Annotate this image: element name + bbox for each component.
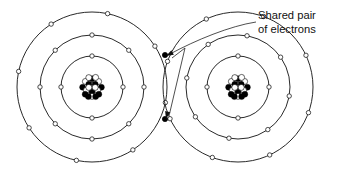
diagram-canvas: Shared pair of electrons — [0, 0, 347, 169]
callout-label-line-1: Shared pair — [258, 9, 316, 21]
right-atom-middle-shell-electron — [185, 76, 189, 80]
nucleon-neutron — [232, 75, 238, 81]
right-atom-outer-shell-electron — [168, 117, 172, 121]
left-atom-outer-shell-electron — [131, 148, 135, 152]
left-atom-middle-shell-electron — [90, 33, 94, 37]
left-atom-middle-shell-electron — [127, 122, 131, 126]
nucleon-proton — [93, 94, 99, 100]
nucleon-proton — [239, 94, 245, 100]
right-atom-inner-shell-electron — [267, 85, 271, 89]
left-atom-outer-shell-electron — [105, 11, 109, 15]
left-atom-outer-shell-electron — [27, 126, 31, 130]
nucleon-neutron — [86, 75, 92, 81]
nucleon-proton — [231, 94, 237, 100]
right-atom-outer-shell-electron — [304, 53, 308, 57]
right-atom-middle-shell-electron — [266, 127, 270, 131]
right-atom-middle-shell-electron — [278, 55, 282, 59]
left-atom-inner-shell-electron — [90, 116, 94, 120]
right-atom-middle-shell-electron — [227, 136, 231, 140]
covalent-bond-diagram: Shared pair of electrons — [0, 0, 347, 169]
right-atom-inner-shell-electron — [205, 85, 209, 89]
nucleon-neutron — [92, 84, 98, 90]
left-atom-middle-shell-electron — [53, 122, 57, 126]
nucleon-proton — [85, 94, 91, 100]
left-atom-outer-shell-electron — [49, 22, 53, 26]
right-atom-middle-shell-electron — [287, 94, 291, 98]
nucleon-neutron — [238, 84, 244, 90]
right-atom-middle-shell-electron — [206, 42, 210, 46]
right-atom-outer-shell-electron — [204, 17, 208, 21]
right-atom-outer-shell-electron — [165, 59, 169, 63]
right-atom-nucleus — [226, 74, 251, 99]
right-atom-outer-shell-electron — [306, 110, 310, 114]
right-atom-outer-shell-electron — [268, 153, 272, 157]
shared-electron-upper — [162, 52, 167, 57]
callout-leader-lines — [165, 22, 256, 119]
right-atom-outer-shell-electron — [210, 155, 214, 159]
nucleon-neutron — [239, 74, 245, 80]
left-atom-inner-shell-electron — [59, 85, 63, 89]
right-atom — [163, 12, 313, 162]
right-atom-inner-shell-electron — [236, 116, 240, 120]
left-atom — [16, 11, 167, 162]
leader-to-lower-shared-electron — [169, 48, 185, 116]
left-atom-outer-shell-electron — [153, 44, 157, 48]
left-atom-inner-shell-electron — [90, 54, 94, 58]
nucleon-neutron — [232, 84, 238, 90]
left-atom-nucleus — [80, 74, 105, 99]
left-atom-middle-shell-electron — [38, 85, 42, 89]
callout-label-line-2: of electrons — [258, 23, 316, 35]
left-atom-outer-shell-electron — [74, 158, 78, 162]
nucleon-neutron — [86, 84, 92, 90]
left-atom-inner-shell-electron — [121, 85, 125, 89]
left-atom-outer-shell-electron — [16, 69, 20, 73]
right-atom-inner-shell-electron — [236, 54, 240, 58]
left-atom-middle-shell-electron — [142, 85, 146, 89]
right-atom-middle-shell-electron — [245, 34, 249, 38]
left-atom-middle-shell-electron — [90, 137, 94, 141]
left-atom-middle-shell-electron — [53, 48, 57, 52]
right-atom-middle-shell-electron — [193, 115, 197, 119]
nucleon-neutron — [93, 74, 99, 80]
left-atom-middle-shell-electron — [127, 48, 131, 52]
